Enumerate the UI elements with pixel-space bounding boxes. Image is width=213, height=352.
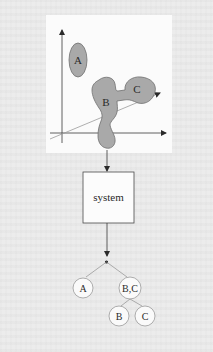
cluster-bc-shape [92, 77, 155, 148]
tree-node-c: C [135, 306, 155, 326]
cluster-tree: A B,C B C [73, 260, 155, 326]
cluster-bc: B C [92, 77, 155, 148]
cluster-a-label: A [74, 54, 82, 66]
tree-edge-root-a [86, 262, 107, 277]
system-label: system [93, 191, 124, 203]
tree-node-bc-label: B,C [122, 283, 138, 294]
tree-edge-root-bc [107, 262, 128, 277]
system-box: system [83, 172, 134, 223]
clustering-diagram: A B C system A B,C B [0, 0, 213, 352]
tree-node-b-label: B [116, 311, 123, 322]
cluster-c-label: C [133, 83, 140, 95]
tree-node-c-label: C [142, 311, 149, 322]
scatter-plot: A B C [50, 30, 166, 148]
cluster-a: A [69, 43, 87, 77]
tree-edge-bc-b [121, 299, 130, 306]
tree-node-b: B [109, 306, 129, 326]
tree-node-a: A [73, 278, 93, 298]
cluster-b-label: B [102, 96, 109, 108]
tree-node-bc: B,C [119, 277, 141, 299]
tree-edge-bc-c [130, 299, 142, 306]
tree-node-a-label: A [79, 283, 87, 294]
